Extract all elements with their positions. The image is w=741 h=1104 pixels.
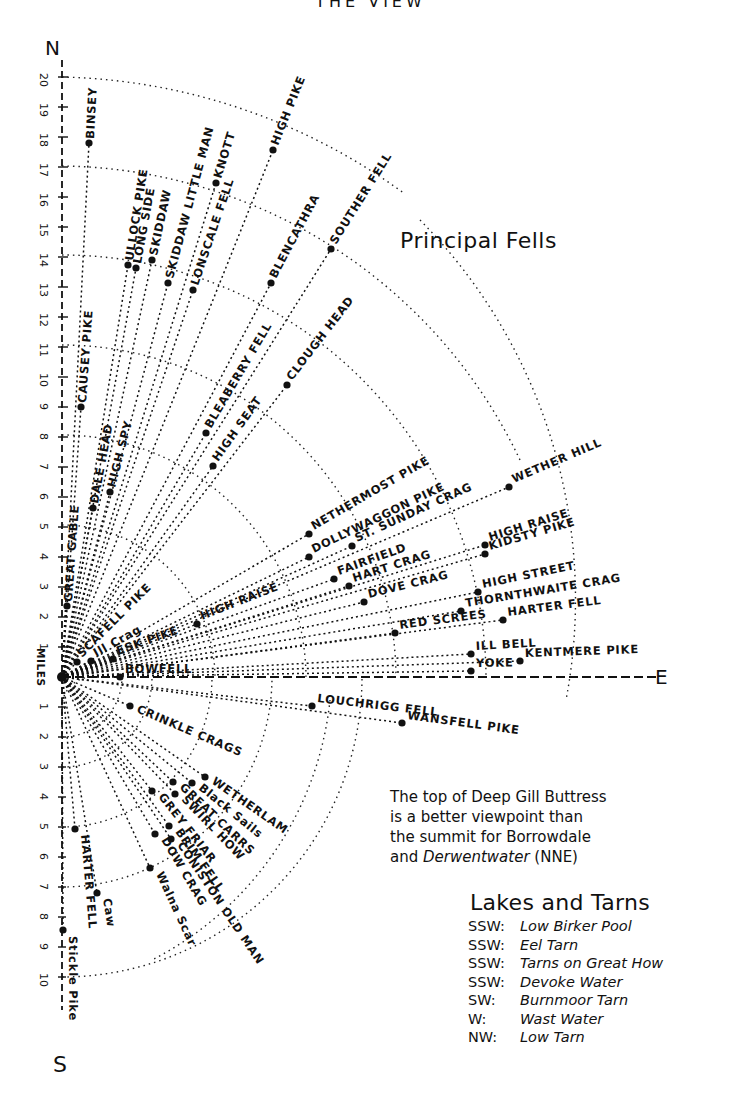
summit-dot — [165, 822, 172, 829]
scale-tick-label: 7 — [37, 463, 50, 470]
lake-item: SSW:Tarns on Great How — [468, 954, 663, 973]
south-scale-labels: 12345678910 — [37, 703, 50, 987]
summit-dot — [345, 582, 352, 589]
fell-label: RED SCREES — [399, 607, 488, 632]
summit-dot — [305, 553, 312, 560]
fell-label: HARTER FELL — [78, 834, 100, 929]
summit-dot — [189, 286, 196, 293]
summit-dot — [481, 550, 488, 557]
scale-tick-label: 12 — [37, 313, 50, 327]
lake-item: SSW:Eel Tarn — [468, 936, 663, 955]
scale-tick-label: 9 — [37, 403, 50, 410]
summit-dot — [106, 488, 113, 495]
summit-dot — [202, 429, 209, 436]
scale-tick-label: 2 — [37, 613, 50, 620]
note-line-2: is a better viewpoint than — [390, 807, 607, 827]
summit-dot — [77, 403, 84, 410]
lake-item: SSW:Low Birker Pool — [468, 917, 663, 936]
summit-dot — [391, 629, 398, 636]
lakes-title: Lakes and Tarns — [470, 890, 663, 915]
scale-tick-label: 5 — [37, 823, 50, 830]
summit-dot — [209, 462, 216, 469]
scale-tick-label: 14 — [37, 253, 50, 267]
scale-tick-label: 18 — [37, 133, 50, 147]
summit-dot — [212, 179, 219, 186]
summit-dot — [169, 778, 176, 785]
summit-dot — [148, 256, 155, 263]
summit-dot — [85, 139, 92, 146]
fell-label: CONISTON OLD MAN — [175, 839, 268, 967]
miles-label: MILES — [35, 648, 47, 687]
lake-item: W:Wast Water — [468, 1010, 663, 1029]
scale-tick-label: 9 — [37, 943, 50, 950]
fell-label: Caw — [100, 897, 118, 928]
lakes-list: SSW:Low Birker PoolSSW:Eel TarnSSW:Tarns… — [468, 917, 663, 1047]
summit-dot — [73, 658, 80, 665]
scale-tick-label: 8 — [37, 433, 50, 440]
summit-dot — [283, 381, 290, 388]
scale-tick-label: 20 — [37, 73, 50, 87]
scale-tick-label: 19 — [37, 103, 50, 117]
summit-dot — [146, 864, 153, 871]
summit-dot — [116, 673, 123, 680]
summit-dot — [308, 702, 315, 709]
fell-label: HIGH PIKE — [268, 74, 308, 148]
scale-tick-label: 10 — [37, 973, 50, 987]
summit-dot — [148, 787, 155, 794]
scale-tick-label: 15 — [37, 223, 50, 237]
scale-tick-label: 4 — [37, 793, 50, 800]
fell-label: KENTMERE PIKE — [525, 642, 640, 660]
fell-label: Stickle Pike — [66, 936, 80, 1021]
viewpoint-origin — [57, 672, 67, 682]
summit-dot — [360, 598, 367, 605]
scale-tick-label: 7 — [37, 883, 50, 890]
scale-tick-label: 5 — [37, 523, 50, 530]
fell-label: HIGH RAISE — [198, 579, 281, 622]
fell-label: KNOTT — [210, 130, 238, 180]
lakes-and-tarns: Lakes and Tarns SSW:Low Birker PoolSSW:E… — [468, 890, 663, 1047]
scale-tick-label: 1 — [37, 703, 50, 710]
summit-dot — [398, 719, 405, 726]
summit-dot — [305, 530, 312, 537]
summit-dot — [89, 504, 96, 511]
summit-dot — [467, 650, 474, 657]
summit-dot — [151, 830, 158, 837]
fell-label: YOKE — [475, 655, 514, 670]
summit-dot — [87, 657, 94, 664]
fell-label: BOWFELL — [125, 662, 192, 676]
summit-dot — [348, 542, 355, 549]
north-label: N — [45, 36, 60, 60]
lake-item: SSW:Devoke Water — [468, 973, 663, 992]
scale-tick-label: 10 — [37, 373, 50, 387]
fell-label: WETHER HILL — [510, 435, 604, 485]
summit-dot — [467, 667, 474, 674]
scale-tick-label: 2 — [37, 733, 50, 740]
summit-dot — [109, 655, 116, 662]
scale-tick-label: 3 — [37, 583, 50, 590]
south-label: S — [53, 1052, 67, 1077]
summit-dot — [330, 575, 337, 582]
lake-item: NW:Low Tarn — [468, 1028, 663, 1047]
note-line-1: The top of Deep Gill Buttress — [390, 787, 607, 807]
scale-tick-label: 16 — [37, 193, 50, 207]
principal-fells-title: Principal Fells — [400, 228, 557, 253]
summit-dot — [327, 245, 334, 252]
scale-tick-label: 6 — [37, 493, 50, 500]
fell-label: WANSFELL PIKE — [407, 708, 521, 737]
scale-tick-label: 11 — [37, 343, 50, 357]
fell-label: CLOUGH HEAD — [283, 293, 357, 383]
scale-tick-label: 8 — [37, 913, 50, 920]
fell-label: BINSEY — [83, 87, 100, 140]
north-scale-labels: 1234567891011121314151617181920 — [37, 73, 50, 650]
lake-item: SW:Burnmoor Tarn — [468, 991, 663, 1010]
summit-dot — [59, 926, 66, 933]
scale-tick-label: 13 — [37, 283, 50, 297]
summit-dot — [269, 146, 276, 153]
viewpoint-note: The top of Deep Gill Buttress is a bette… — [390, 787, 607, 867]
scale-tick-label: 17 — [37, 163, 50, 177]
summit-dot — [267, 279, 274, 286]
summit-dot — [164, 279, 171, 286]
scale-tick-label: 4 — [37, 553, 50, 560]
note-line-4: and Derwentwater (NNE) — [390, 847, 607, 867]
summit-dot — [126, 702, 133, 709]
